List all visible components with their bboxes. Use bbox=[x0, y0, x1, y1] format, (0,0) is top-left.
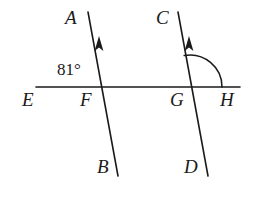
point-label-C: C bbox=[156, 8, 169, 27]
point-label-D: D bbox=[184, 157, 198, 176]
geometry-diagram-canvas: A C B D E F G H 81° bbox=[0, 0, 254, 198]
point-label-G: G bbox=[170, 90, 184, 109]
angle-arc-at-G bbox=[184, 55, 222, 87]
point-label-A: A bbox=[65, 8, 77, 27]
arrowhead-CD-icon bbox=[185, 36, 194, 51]
diagram-svg bbox=[0, 0, 254, 198]
point-label-H: H bbox=[220, 90, 234, 109]
point-label-F: F bbox=[80, 90, 92, 109]
arrowhead-AB-icon bbox=[95, 36, 104, 51]
point-label-E: E bbox=[22, 90, 34, 109]
angle-measure-at-F: 81° bbox=[57, 61, 81, 78]
line-AB bbox=[88, 12, 118, 176]
point-label-B: B bbox=[97, 157, 109, 176]
